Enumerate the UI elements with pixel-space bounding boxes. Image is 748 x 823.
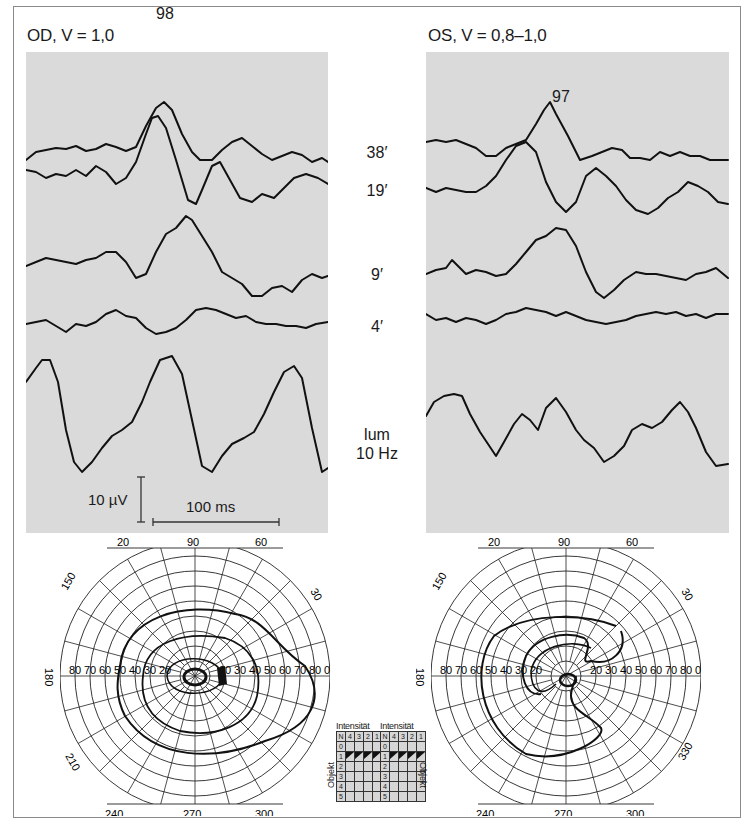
condition-label-9: 9′: [347, 265, 407, 284]
svg-text:90: 90: [187, 536, 199, 548]
trace-4: [426, 394, 728, 466]
condition-label-4: 4′: [347, 317, 407, 336]
od-legend-grid: N4321012345: [336, 731, 382, 802]
os-object-label: Objekt: [418, 762, 428, 788]
svg-text:150: 150: [58, 570, 78, 592]
svg-text:60: 60: [650, 664, 662, 676]
legend-col-header: N: [337, 732, 346, 742]
legend-col-header: N: [381, 732, 390, 742]
od-object-label: Objekt: [326, 762, 336, 788]
od-intensity-legend: Intensität N4321012345: [336, 722, 382, 802]
legend-row-header: 0: [337, 742, 346, 752]
legend-col-header: 4: [390, 732, 399, 742]
od-intensity-header: Intensität: [336, 722, 382, 731]
legend-cell: [390, 792, 399, 802]
legend-row-header: 4: [381, 782, 390, 792]
legend-col-header: 3: [355, 732, 364, 742]
legend-cell: [355, 742, 364, 752]
legend-cell: [346, 762, 355, 772]
legend-cell: [390, 782, 399, 792]
svg-text:0: 0: [324, 664, 330, 676]
legend-cell: [355, 772, 364, 782]
svg-text:270: 270: [183, 808, 201, 816]
od-perimetry-chart: 8070605040302020304050607080090602030150…: [30, 536, 340, 820]
legend-row-header: 2: [337, 762, 346, 772]
legend-cell: [364, 752, 373, 762]
scale-time-label: 100 ms: [186, 498, 235, 515]
legend-cell: [408, 792, 417, 802]
legend-cell: [355, 792, 364, 802]
legend-cell: [408, 772, 417, 782]
os-erg-panel: [426, 52, 729, 533]
os-perimetry-chart: 8070605040302020304050607080090602030150…: [416, 536, 726, 820]
legend-col-header: 2: [408, 732, 417, 742]
legend-cell: [399, 762, 408, 772]
trace-0: [426, 102, 728, 160]
legend-row-header: 3: [337, 772, 346, 782]
legend-cell: [399, 782, 408, 792]
svg-text:300: 300: [626, 808, 644, 816]
svg-text:240: 240: [476, 808, 494, 816]
trace-2: [426, 228, 728, 298]
svg-text:330: 330: [675, 740, 695, 762]
legend-cell: [399, 752, 408, 762]
legend-cell: [390, 742, 399, 752]
legend-col-header: 3: [399, 732, 408, 742]
legend-cell: [355, 752, 364, 762]
svg-text:40: 40: [129, 664, 141, 676]
legend-col-header: 2: [364, 732, 373, 742]
svg-text:80: 80: [680, 664, 692, 676]
trace-3: [426, 308, 728, 324]
legend-cell: [390, 772, 399, 782]
svg-text:210: 210: [63, 751, 83, 773]
svg-text:90: 90: [558, 536, 570, 548]
legend-cell: [408, 782, 417, 792]
scale-amplitude-label: 10 µV: [88, 491, 128, 508]
legend-row-header: 1: [381, 752, 390, 762]
os-perimetry-grid: 8070605040302020304050607080090602030150…: [416, 536, 726, 816]
legend-cell: [417, 742, 426, 752]
svg-text:70: 70: [455, 664, 467, 676]
legend-cell: [346, 742, 355, 752]
os-peak-label: 97: [552, 88, 570, 106]
legend-row-header: 0: [381, 742, 390, 752]
legend-cell: [346, 772, 355, 782]
svg-text:30: 30: [308, 586, 325, 603]
svg-text:180: 180: [43, 668, 55, 686]
svg-text:30: 30: [679, 586, 696, 603]
legend-cell: [364, 792, 373, 802]
svg-text:60: 60: [255, 536, 267, 548]
svg-text:30: 30: [515, 664, 527, 676]
legend-cell: [364, 782, 373, 792]
legend-col-header: 1: [417, 732, 426, 742]
svg-text:70: 70: [84, 664, 96, 676]
legend-cell: [390, 762, 399, 772]
svg-text:30: 30: [144, 664, 156, 676]
svg-text:30: 30: [605, 664, 617, 676]
svg-text:60: 60: [626, 536, 638, 548]
svg-text:60: 60: [279, 664, 291, 676]
condition-label-38: 38′: [347, 143, 407, 162]
legend-row-header: 1: [337, 752, 346, 762]
svg-text:40: 40: [620, 664, 632, 676]
legend-row-header: 5: [337, 792, 346, 802]
svg-text:30: 30: [234, 664, 246, 676]
svg-text:20: 20: [590, 664, 602, 676]
legend-cell: [346, 792, 355, 802]
legend-cell: [346, 782, 355, 792]
legend-cell: [417, 752, 426, 762]
svg-text:270: 270: [554, 808, 572, 816]
svg-text:20: 20: [117, 536, 129, 548]
legend-cell: [355, 782, 364, 792]
condition-label-19: 19′: [347, 181, 407, 200]
svg-text:0: 0: [695, 664, 701, 676]
condition-label-lum: lum: [347, 425, 407, 444]
svg-text:20: 20: [488, 536, 500, 548]
legend-row-header: 3: [381, 772, 390, 782]
os-intensity-header: Intensität: [380, 722, 426, 731]
svg-text:70: 70: [665, 664, 677, 676]
legend-row-header: 4: [337, 782, 346, 792]
legend-cell: [355, 762, 364, 772]
svg-text:50: 50: [635, 664, 647, 676]
svg-text:150: 150: [429, 570, 449, 592]
